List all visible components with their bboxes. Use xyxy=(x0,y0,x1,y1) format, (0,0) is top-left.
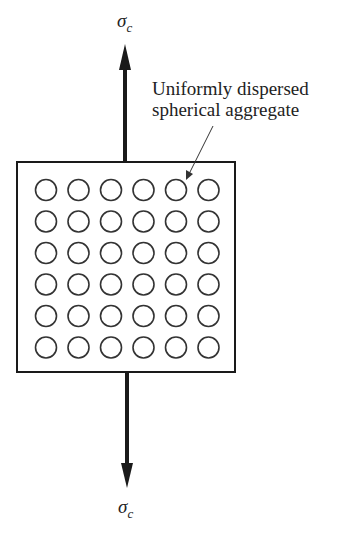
sigma-subscript: c xyxy=(127,506,133,521)
annotation-line-2: spherical aggregate xyxy=(152,99,309,120)
sigma-symbol: σ xyxy=(117,10,126,31)
specimen-box xyxy=(17,162,235,372)
bottom-arrow-head xyxy=(121,463,133,488)
annotation-line-1: Uniformly dispersed xyxy=(152,78,309,99)
sigma-subscript: c xyxy=(126,20,132,35)
top-arrow-head xyxy=(119,44,131,70)
top-stress-label: σc xyxy=(117,10,132,36)
aggregate-annotation: Uniformly dispersed spherical aggregate xyxy=(152,78,309,120)
sigma-symbol: σ xyxy=(118,496,127,517)
bottom-stress-label: σc xyxy=(118,496,133,522)
